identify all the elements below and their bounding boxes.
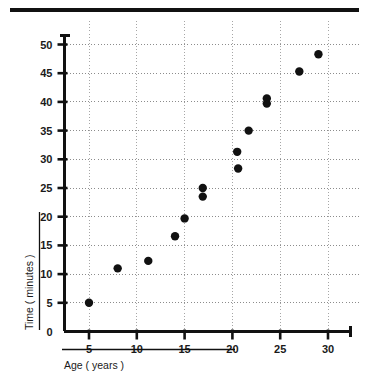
data-point [85, 299, 93, 307]
y-tick-label: 50 [40, 39, 52, 51]
chart-canvas: 05101520253035404550 51015202530 Age ( y… [0, 0, 369, 385]
x-tick-label: 25 [274, 343, 286, 355]
y-tick-label: 15 [40, 239, 52, 251]
data-point [144, 257, 152, 265]
data-point [263, 94, 271, 102]
data-point [244, 126, 252, 134]
y-tick-label: 45 [40, 67, 52, 79]
x-tick-label: 5 [86, 343, 92, 355]
data-point [199, 184, 207, 192]
y-axis-label: Time ( minutes ) [23, 255, 35, 330]
x-tick-label: 20 [226, 343, 238, 355]
y-tick-label: 30 [40, 153, 52, 165]
x-tick-label: 10 [131, 343, 143, 355]
x-axis-ticks: 51015202530 [86, 330, 334, 355]
scatter-plot-figure: 05101520253035404550 51015202530 Age ( y… [0, 0, 369, 385]
x-axis-label: Age ( years ) [64, 359, 124, 371]
y-tick-label: 10 [40, 268, 52, 280]
grid-lines [67, 21, 360, 329]
data-point [199, 192, 207, 200]
data-point [233, 148, 241, 156]
data-point [113, 264, 121, 272]
y-tick-label: 25 [40, 182, 52, 194]
data-point [234, 164, 242, 172]
x-tick-label: 30 [322, 343, 334, 355]
y-tick-label: 20 [40, 211, 52, 223]
data-point [295, 67, 303, 75]
data-point [314, 50, 322, 58]
y-tick-label: 35 [40, 125, 52, 137]
data-point [171, 232, 179, 240]
data-point [180, 214, 188, 222]
y-tick-label: 0 [46, 326, 52, 338]
data-points [85, 50, 323, 307]
y-tick-label: 40 [40, 96, 52, 108]
x-tick-label: 15 [178, 343, 190, 355]
y-tick-label: 5 [46, 297, 52, 309]
